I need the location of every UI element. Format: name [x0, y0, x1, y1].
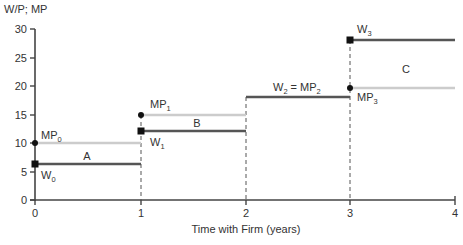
svg-text:10: 10 [15, 137, 27, 149]
x-tick-labels: 0 1 2 3 4 [32, 207, 458, 219]
label-mp3: MP3 [357, 91, 378, 106]
mp3-marker [347, 85, 353, 91]
svg-text:5: 5 [21, 166, 27, 178]
label-w2-mp2: W2 = MP2 [273, 81, 321, 96]
w1-marker [138, 128, 145, 135]
svg-text:2: 2 [243, 207, 249, 219]
y-tick-labels: 30 25 20 15 10 5 0 [15, 23, 27, 206]
y-axis-label: W/P; MP [4, 3, 47, 15]
svg-text:0: 0 [21, 194, 27, 206]
svg-text:15: 15 [15, 109, 27, 121]
svg-text:1: 1 [138, 207, 144, 219]
mp0-marker [32, 140, 38, 146]
region-c-label: C [402, 63, 410, 75]
w-series [35, 40, 455, 164]
label-mp1: MP1 [150, 98, 171, 113]
label-w0: W0 [41, 169, 56, 184]
svg-text:4: 4 [452, 207, 458, 219]
w3-marker [347, 37, 354, 44]
x-axis-label: Time with Firm (years) [192, 223, 301, 235]
region-b-label: B [193, 117, 200, 129]
w0-marker [32, 161, 39, 168]
svg-text:30: 30 [15, 23, 27, 35]
svg-text:25: 25 [15, 52, 27, 64]
svg-text:3: 3 [347, 207, 353, 219]
mp1-marker [138, 112, 144, 118]
label-w3: W3 [357, 23, 372, 38]
svg-text:0: 0 [32, 207, 38, 219]
step-chart: W/P; MP 30 25 20 15 10 5 0 0 1 2 3 4 Tim… [0, 0, 463, 245]
w-markers [32, 37, 354, 168]
region-a-label: A [83, 150, 91, 162]
period-dividers [141, 40, 350, 200]
mp-series [35, 88, 455, 143]
label-w1: W1 [150, 136, 165, 151]
svg-text:20: 20 [15, 80, 27, 92]
